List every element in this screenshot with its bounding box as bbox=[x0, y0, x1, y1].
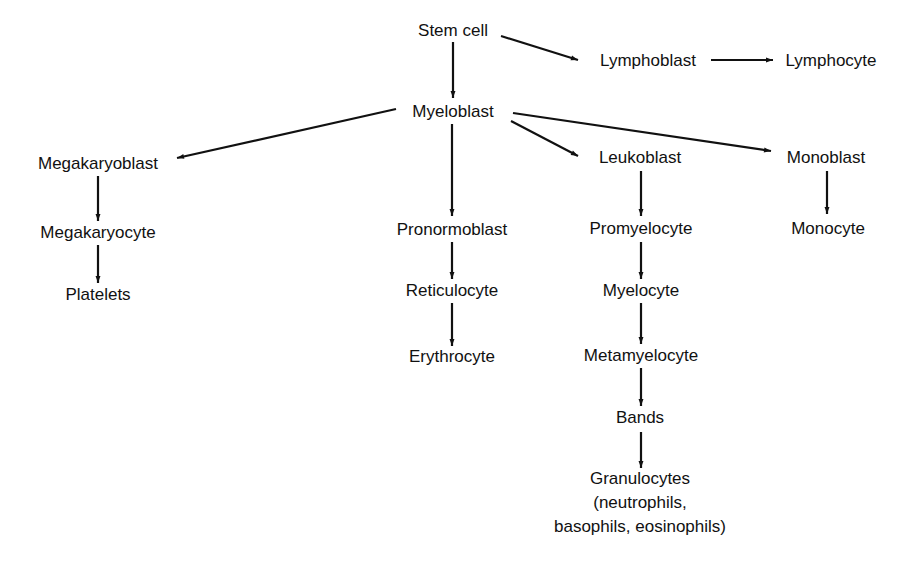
hematopoiesis-diagram: Stem cell Lymphoblast Lymphocyte Myelobl… bbox=[0, 0, 904, 572]
granulocytes-title: Granulocytes bbox=[554, 467, 726, 491]
arrow-myeloblast-to-monoblast bbox=[513, 113, 771, 151]
granulocytes-subtitle-line1: (neutrophils, bbox=[554, 491, 726, 515]
node-megakaryoblast: Megakaryoblast bbox=[38, 155, 158, 172]
node-reticulocyte: Reticulocyte bbox=[406, 282, 499, 299]
node-lymphocyte: Lymphocyte bbox=[785, 52, 876, 69]
node-megakaryocyte: Megakaryocyte bbox=[40, 224, 155, 241]
node-promyelocyte: Promyelocyte bbox=[590, 220, 693, 237]
node-bands: Bands bbox=[616, 409, 664, 426]
node-myelocyte: Myelocyte bbox=[603, 282, 680, 299]
node-stem-cell: Stem cell bbox=[418, 22, 488, 39]
node-monoblast: Monoblast bbox=[787, 149, 865, 166]
node-pronormoblast: Pronormoblast bbox=[397, 221, 508, 238]
node-monocyte: Monocyte bbox=[791, 220, 865, 237]
node-metamyelocyte: Metamyelocyte bbox=[584, 347, 698, 364]
arrow-stem-to-lymphoblast bbox=[501, 36, 578, 60]
node-granulocytes: Granulocytes (neutrophils, basophils, eo… bbox=[554, 467, 726, 539]
node-leukoblast: Leukoblast bbox=[599, 149, 681, 166]
granulocytes-subtitle-line2: basophils, eosinophils) bbox=[554, 515, 726, 539]
node-myeloblast: Myeloblast bbox=[412, 103, 493, 120]
node-lymphoblast: Lymphoblast bbox=[600, 52, 696, 69]
arrow-myeloblast-to-leukoblast bbox=[511, 121, 578, 156]
node-platelets: Platelets bbox=[65, 286, 130, 303]
arrow-myeloblast-to-megakaryoblast bbox=[177, 109, 396, 158]
node-erythrocyte: Erythrocyte bbox=[409, 348, 495, 365]
